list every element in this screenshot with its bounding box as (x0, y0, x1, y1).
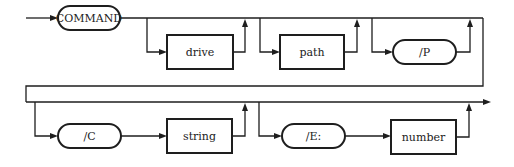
p-switch-branch-path (372, 18, 388, 52)
p-switch-in-arrow-icon (385, 49, 393, 55)
string-in-arrow-icon (159, 133, 167, 139)
c-switch-branch-path (35, 102, 53, 136)
e-switch-branch-path (259, 102, 277, 136)
path-in-arrow-icon (272, 49, 280, 55)
e-switch-label: /E: (306, 130, 321, 143)
drive-return-path (233, 24, 245, 52)
exit-arrow-icon (483, 99, 491, 105)
path-label: path (299, 46, 324, 59)
e-switch-node: /E: (282, 124, 345, 148)
number-return-arrow-icon (466, 103, 472, 111)
c-switch-node: /C (58, 124, 121, 148)
command-syntax-diagram: COMMAND drive path /P /C string (0, 0, 514, 167)
c-switch-in-arrow-icon (50, 133, 58, 139)
path-return-path (344, 24, 357, 52)
path-return-arrow-icon (354, 19, 360, 27)
string-return-arrow-icon (242, 103, 248, 111)
p-switch-return-arrow-icon (467, 19, 473, 27)
number-return-path (456, 108, 469, 137)
string-return-path (232, 108, 245, 136)
drive-label: drive (186, 46, 215, 59)
path-node: path (280, 35, 344, 69)
c-switch-label: /C (83, 130, 95, 143)
p-switch-node: /P (393, 40, 456, 64)
command-label: COMMAND (56, 12, 123, 25)
number-label: number (402, 131, 446, 144)
number-in-arrow-icon (383, 133, 391, 139)
string-label: string (183, 130, 216, 143)
path-branch-path (260, 18, 275, 52)
drive-in-arrow-icon (159, 49, 167, 55)
e-switch-in-arrow-icon (274, 133, 282, 139)
drive-branch-path (147, 18, 162, 52)
number-node: number (391, 120, 456, 154)
string-node: string (167, 119, 232, 153)
drive-node: drive (167, 35, 233, 69)
command-node: COMMAND (56, 6, 123, 30)
p-switch-return-path (456, 24, 470, 52)
drive-return-arrow-icon (242, 19, 248, 27)
p-switch-label: /P (419, 46, 431, 59)
